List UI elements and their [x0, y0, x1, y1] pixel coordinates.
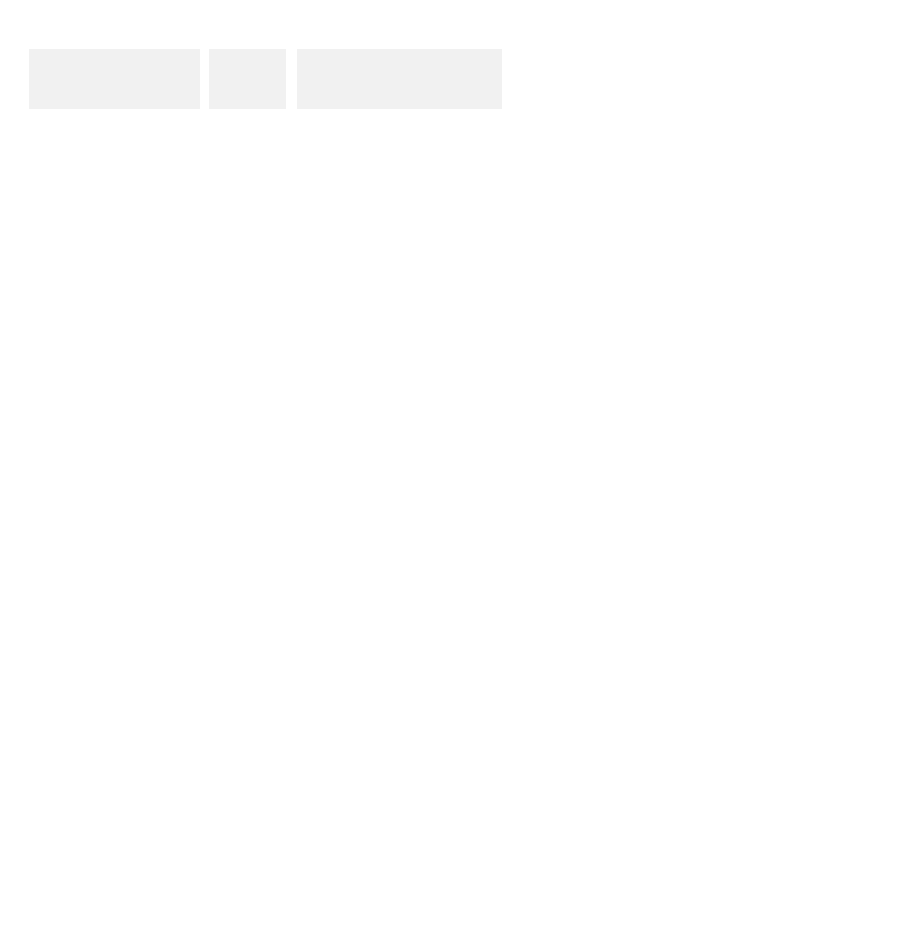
- col1: [29, 49, 199, 109]
- header-genes: [297, 49, 502, 109]
- header-cell-type: [209, 49, 286, 109]
